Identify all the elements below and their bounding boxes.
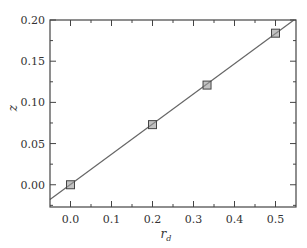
axis-ticks [50,20,296,207]
y-tick-label: 0.10 [21,96,46,109]
data-point-marker [67,181,75,189]
y-tick-label: 0.05 [21,138,46,151]
x-axis-label: rd [161,227,172,243]
x-tick-labels: 0.00.10.20.30.40.5 [62,213,285,226]
fit-line [50,20,294,200]
x-tick-label: 0.5 [267,213,285,226]
x-tick-label: 0.3 [185,213,203,226]
x-tick-label: 0.0 [62,213,80,226]
x-tick-label: 0.2 [144,213,162,226]
chart: 0.00.10.20.30.40.5 0.000.050.100.150.20 … [0,0,307,248]
data-point-marker [272,29,280,37]
plot-frame [50,20,296,207]
y-tick-labels: 0.000.050.100.150.20 [21,14,46,192]
x-tick-label: 0.1 [103,213,121,226]
data-point-marker [203,81,211,89]
y-axis-label: z [6,104,20,112]
y-tick-label: 0.20 [21,14,46,27]
data-point-marker [149,121,157,129]
x-tick-label: 0.4 [226,213,244,226]
y-tick-label: 0.00 [21,179,46,192]
y-tick-label: 0.15 [21,55,46,68]
